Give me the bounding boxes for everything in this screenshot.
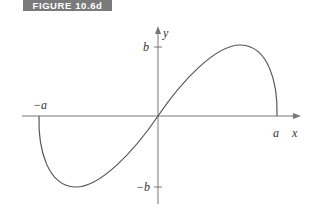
y-axis-label: y bbox=[162, 26, 169, 40]
tick-label-neg-a: −a bbox=[33, 98, 47, 112]
tick-label-neg-b: −b bbox=[136, 180, 150, 194]
x-axis-label: x bbox=[291, 126, 298, 140]
graph: y x b −b −a a bbox=[0, 0, 321, 224]
x-axis-arrow-icon bbox=[293, 113, 301, 119]
tick-label-a: a bbox=[273, 126, 279, 140]
tick-label-b: b bbox=[143, 40, 149, 54]
y-axis-arrow-icon bbox=[155, 26, 161, 34]
